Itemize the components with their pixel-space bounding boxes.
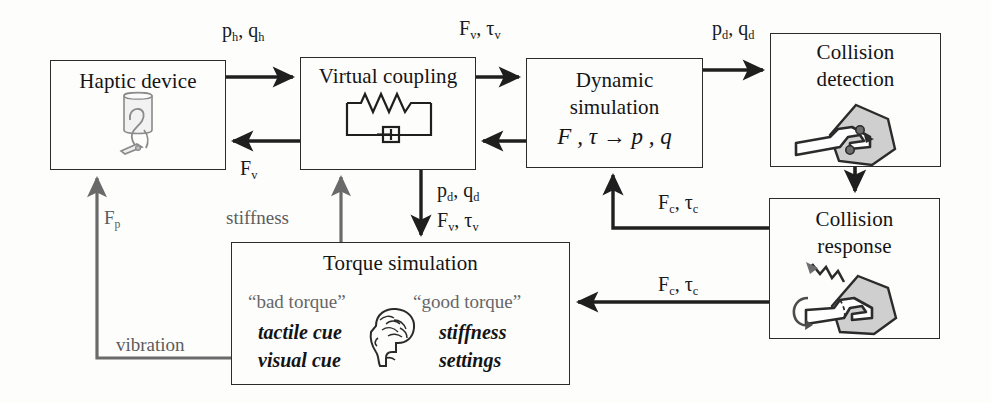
edge-label-pd-qd-top-sub1: d bbox=[722, 28, 728, 42]
node-collision-response-label-1: Collision bbox=[770, 207, 939, 231]
node-collision-response-label-2: response bbox=[770, 234, 939, 258]
edge-label-fp-sub1: p bbox=[115, 218, 121, 231]
edge-label-fv-tauv-down-text: F bbox=[437, 209, 448, 231]
edge-label-fc-tauc-up-sub1: c bbox=[669, 202, 675, 216]
node-collision-detection[interactable]: Collision detection bbox=[770, 33, 941, 167]
edge-label-fv-tauv-down-sub1: v bbox=[448, 220, 454, 234]
node-torque-simulation-label: Torque simulation bbox=[232, 251, 569, 275]
node-torque-simulation[interactable]: Torque simulation “bad torque” “good tor… bbox=[231, 242, 570, 385]
edge-label-pd-qd-mid-text2: q bbox=[463, 179, 473, 201]
node-collision-response[interactable]: Collision response bbox=[769, 198, 940, 339]
node-haptic-device-label: Haptic device bbox=[51, 69, 225, 93]
node-dynamic-simulation-equation: F , τ → p , q bbox=[527, 125, 702, 149]
comma-5: , bbox=[454, 209, 464, 231]
edge-label-fv-tauv-top-sub1: v bbox=[470, 28, 476, 42]
good-cue-settings: settings bbox=[439, 349, 501, 371]
good-cue-stiffness: stiffness bbox=[439, 321, 506, 343]
edge-label-fv-back: Fv bbox=[240, 158, 257, 181]
bad-torque-quote: “bad torque” bbox=[248, 291, 346, 312]
bad-cue-tactile: tactile cue bbox=[258, 321, 342, 343]
bad-cue-visual: visual cue bbox=[258, 349, 341, 371]
edge-label-fp: Fp bbox=[104, 208, 120, 230]
edge-label-fv-tauv-top-text: F bbox=[459, 17, 470, 39]
edge-label-fv-tauv-down-sub2: v bbox=[472, 220, 478, 234]
edge-label-ph-qh-sub2: h bbox=[258, 30, 264, 44]
edge-label-fc-tauc-left-sub1: c bbox=[669, 284, 675, 298]
node-collision-detection-label-1: Collision bbox=[771, 40, 940, 64]
edge-label-fc-tauc-up-text2: τ bbox=[685, 191, 693, 213]
edge-label-fv-tauv-top: Fv, τv bbox=[459, 18, 501, 41]
node-dynamic-simulation[interactable]: Dynamic simulation F , τ → p , q bbox=[526, 58, 703, 168]
edge-label-stiffness: stiffness bbox=[226, 208, 289, 227]
edge-label-fv-back-text: F bbox=[240, 157, 251, 179]
edge-label-pd-qd-mid-sub2: d bbox=[473, 190, 479, 204]
comma-3: , bbox=[728, 17, 738, 39]
edge-label-fp-text: F bbox=[104, 207, 115, 228]
edge-label-fc-tauc-up-sub2: c bbox=[693, 202, 699, 216]
comma-6: , bbox=[675, 191, 685, 213]
node-haptic-device[interactable]: Haptic device bbox=[50, 60, 226, 170]
haptic-pipeline-diagram: Haptic device Virtual coupling Dynamic s… bbox=[0, 0, 991, 403]
edge-label-fv-tauv-down: Fv, τv bbox=[437, 210, 479, 233]
comma-7: , bbox=[675, 273, 685, 295]
edge-label-fv-back-sub1: v bbox=[251, 168, 257, 182]
comma-4: , bbox=[453, 179, 463, 201]
edge-label-pd-qd-top-text: p bbox=[712, 17, 722, 39]
edge-label-fc-tauc-left-text: F bbox=[658, 273, 669, 295]
node-collision-detection-label-2: detection bbox=[771, 67, 940, 91]
arrow-torque-to-haptic-vibration bbox=[97, 178, 231, 358]
edge-label-ph-qh-text: p bbox=[222, 19, 232, 41]
edge-label-fc-tauc-up-text: F bbox=[658, 191, 669, 213]
comma-1: , bbox=[238, 19, 248, 41]
edge-label-vibration: vibration bbox=[116, 335, 185, 354]
edge-label-pd-qd-mid-text: p bbox=[437, 179, 447, 201]
edge-label-ph-qh: ph, qh bbox=[222, 20, 264, 43]
edge-label-fv-tauv-top-sub2: v bbox=[494, 28, 500, 42]
good-torque-quote: “good torque” bbox=[413, 291, 521, 312]
edge-label-fc-tauc-left-text2: τ bbox=[685, 273, 693, 295]
edge-label-pd-qd-mid: pd, qd bbox=[437, 180, 479, 203]
node-virtual-coupling-label: Virtual coupling bbox=[301, 64, 475, 88]
edge-label-fc-tauc-left: Fc, τc bbox=[658, 274, 698, 297]
edge-label-ph-qh-sub1: h bbox=[232, 30, 238, 44]
edge-label-pd-qd-top-text2: q bbox=[738, 17, 748, 39]
node-virtual-coupling[interactable]: Virtual coupling bbox=[300, 57, 476, 170]
comma-2: , bbox=[476, 17, 486, 39]
edge-label-pd-qd-top: pd, qd bbox=[712, 18, 754, 41]
edge-label-pd-qd-top-sub2: d bbox=[748, 28, 754, 42]
node-dynamic-simulation-label-2: simulation bbox=[527, 95, 702, 119]
node-dynamic-simulation-label-1: Dynamic bbox=[527, 68, 702, 92]
edge-label-fc-tauc-left-sub2: c bbox=[693, 284, 699, 298]
edge-label-pd-qd-mid-sub1: d bbox=[447, 190, 453, 204]
edge-label-ph-qh-text2: q bbox=[248, 19, 258, 41]
edge-label-fc-tauc-up: Fc, τc bbox=[658, 192, 698, 215]
